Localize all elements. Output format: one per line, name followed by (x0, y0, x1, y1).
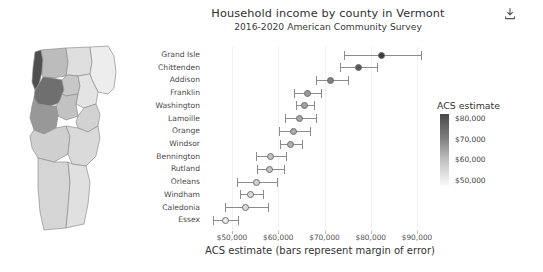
x-tick-label: $60,000 (263, 233, 294, 242)
y-axis-label: Windsor (169, 138, 200, 150)
x-tick-label: $50,000 (217, 233, 248, 242)
legend-title: ACS estimate (437, 100, 500, 111)
x-tick-label: $70,000 (309, 233, 340, 242)
legend: ACS estimate $80,000$70,000$60,000$50,00… (437, 100, 541, 192)
x-tick-label: $80,000 (355, 233, 386, 242)
error-bar-cap (316, 76, 317, 85)
error-bar-cap (240, 190, 241, 199)
y-axis-label: Orleans (171, 176, 200, 188)
error-bar-cap (280, 140, 281, 149)
data-point[interactable] (253, 179, 260, 186)
error-bar-cap (268, 203, 269, 212)
error-bar-cap (344, 51, 345, 60)
data-point[interactable] (296, 115, 303, 122)
y-axis-label: Grand Isle (161, 49, 200, 61)
y-axis-label: Chittenden (158, 62, 200, 74)
error-bar-cap (277, 178, 278, 187)
error-bar-cap (340, 63, 341, 72)
error-bar-cap (263, 190, 264, 199)
legend-tick-label: $80,000 (455, 114, 486, 123)
data-point[interactable] (304, 90, 311, 97)
y-axis-label: Orange (172, 125, 200, 137)
legend-colorbar (440, 114, 449, 186)
chart-page: Household income by county in Vermont 20… (0, 0, 543, 272)
x-tick-label: $90,000 (402, 233, 433, 242)
legend-tick-label: $50,000 (455, 175, 486, 184)
error-bar-cap (213, 216, 214, 225)
data-point[interactable] (267, 153, 274, 160)
data-point[interactable] (222, 217, 229, 224)
error-bar-cap (316, 114, 317, 123)
plot-row[interactable]: Chittenden (0, 62, 543, 74)
y-axis-label: Addison (170, 74, 200, 86)
legend-tick-label: $70,000 (455, 134, 486, 143)
y-axis-label: Windham (164, 189, 200, 201)
data-point[interactable] (301, 102, 308, 109)
y-axis-label: Washington (155, 100, 200, 112)
data-point[interactable] (355, 64, 362, 71)
data-point[interactable] (327, 77, 334, 84)
data-point[interactable] (287, 141, 294, 148)
error-bar-cap (256, 152, 257, 161)
y-axis-label: Rutland (171, 163, 200, 175)
error-bar-cap (225, 203, 226, 212)
y-axis-label: Lamoille (168, 113, 200, 125)
plot-row[interactable]: Addison (0, 74, 543, 86)
x-axis-label: ACS estimate (bars represent margin of e… (190, 245, 450, 256)
plot-row[interactable]: Essex (0, 214, 543, 226)
data-point[interactable] (247, 191, 254, 198)
error-bar-cap (279, 127, 280, 136)
error-bar-cap (321, 89, 322, 98)
error-bar-cap (302, 140, 303, 149)
error-bar-cap (421, 51, 422, 60)
error-bar-cap (348, 76, 349, 85)
error-bar-cap (294, 89, 295, 98)
error-bar-cap (314, 101, 315, 110)
error-bar-cap (286, 152, 287, 161)
plot-row[interactable]: Franklin (0, 87, 543, 99)
error-bar-cap (296, 101, 297, 110)
error-bar-cap (238, 216, 239, 225)
error-bar-cap (237, 178, 238, 187)
y-axis-label: Bennington (156, 151, 200, 163)
data-point[interactable] (266, 166, 273, 173)
y-axis-label: Franklin (170, 87, 200, 99)
data-point[interactable] (378, 52, 385, 59)
error-bar-cap (285, 114, 286, 123)
data-point[interactable] (242, 204, 249, 211)
y-axis-label: Caledonia (162, 202, 200, 214)
y-axis-label: Essex (178, 214, 200, 226)
error-bar-cap (310, 127, 311, 136)
error-bar-cap (284, 165, 285, 174)
error-bar-cap (257, 165, 258, 174)
error-bar-cap (377, 63, 378, 72)
plot-row[interactable]: Caledonia (0, 202, 543, 214)
data-point[interactable] (290, 128, 297, 135)
plot-row[interactable]: Grand Isle (0, 49, 543, 61)
legend-tick-label: $60,000 (455, 155, 486, 164)
